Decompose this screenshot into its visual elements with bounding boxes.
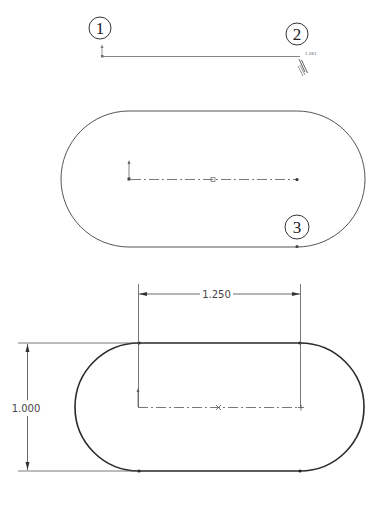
step-1-group: 1 2 1.281	[89, 17, 317, 76]
endpoint-marker	[298, 469, 301, 472]
cursor-length-readout: 1.281	[305, 51, 317, 56]
cursor-point-marker	[295, 245, 298, 248]
callout-2-label: 2	[293, 25, 302, 44]
callout-1-label: 1	[96, 19, 105, 38]
origin-icon	[101, 45, 104, 58]
callout-1: 1	[89, 17, 111, 39]
dimension-horizontal-value[interactable]: 1.250	[202, 289, 231, 300]
origin-icon	[137, 388, 140, 407]
cad-sketch-figure: 1 2 1.281	[0, 0, 386, 508]
endpoint-marker	[298, 341, 301, 344]
slot-pencil-cursor-icon	[298, 59, 308, 76]
step-3-group: 1.250 1.000	[12, 284, 364, 473]
dimension-horizontal[interactable]: 1.250	[139, 284, 301, 407]
slot-outline-preview	[61, 111, 365, 247]
step-2-group: 3	[61, 111, 365, 248]
callout-2: 2	[286, 23, 308, 45]
endpoint-marker	[298, 405, 304, 411]
endpoint-marker	[295, 178, 298, 181]
callout-3-label: 3	[293, 218, 302, 237]
origin-icon	[128, 160, 131, 181]
dimension-vertical-value[interactable]: 1.000	[12, 403, 41, 414]
callout-3: 3	[285, 215, 309, 239]
